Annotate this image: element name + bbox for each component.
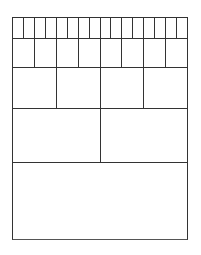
grid-cell [100,108,189,162]
grid-cell [34,38,56,67]
subdivision-diagram [12,17,188,240]
grid-cell [143,38,165,67]
grid-row-1-cells [12,162,188,240]
grid-cell [100,67,144,108]
grid-cell [56,67,100,108]
grid-cell [143,67,188,108]
grid-cell [78,17,89,38]
grid-cell [12,108,100,162]
grid-cell [23,17,34,38]
grid-cell [100,17,111,38]
grid-row-16-cells [12,17,188,38]
grid-cell [56,17,67,38]
grid-cell [100,38,122,67]
grid-cell [78,38,100,67]
grid-row-4-cells [12,67,188,108]
grid-cell [12,17,23,38]
grid-cell [121,17,132,38]
grid-row-2-cells [12,108,188,162]
grid-cell [12,67,56,108]
grid-cell [34,17,45,38]
grid-cell [12,38,34,67]
grid-cell [132,17,143,38]
grid-cell [56,38,78,67]
grid-cell [110,17,121,38]
grid-cell [45,17,56,38]
grid-cell [154,17,165,38]
grid-cell [165,17,176,38]
grid-row-8-cells [12,38,188,67]
grid-cell [67,17,78,38]
grid-cell [121,38,143,67]
grid-cell [176,17,188,38]
grid-cell [89,17,100,38]
grid-cell [12,162,188,240]
grid-cell [165,38,188,67]
grid-cell [143,17,154,38]
